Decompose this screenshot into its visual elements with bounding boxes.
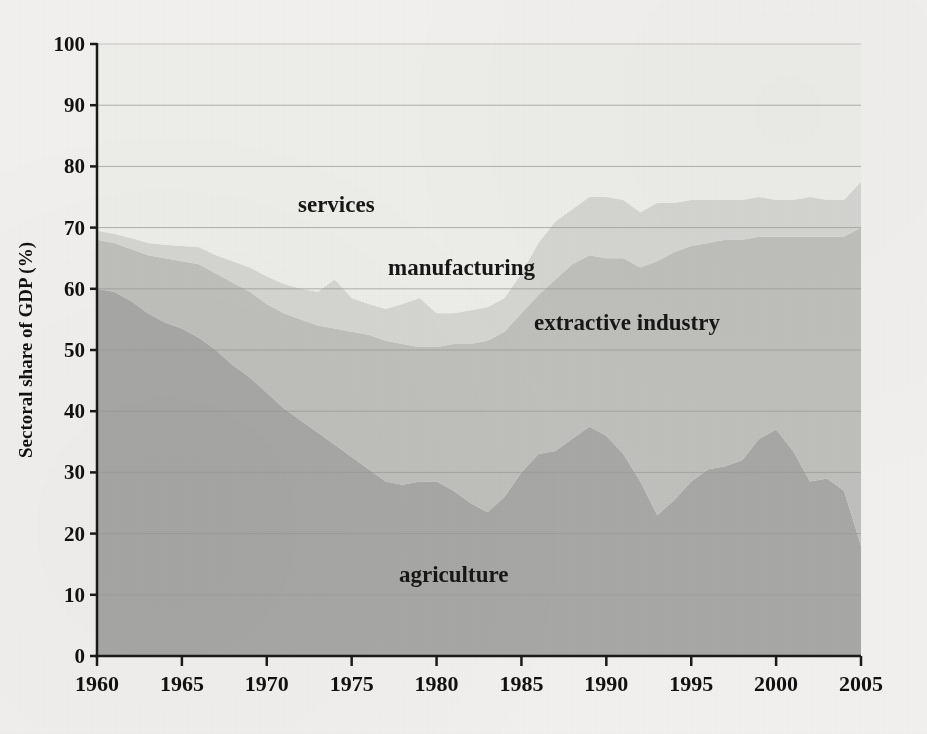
y-tick-label-20: 20 xyxy=(64,522,85,546)
chart-figure: 0102030405060708090100196019651970197519… xyxy=(0,0,927,734)
y-tick-label-50: 50 xyxy=(64,338,85,362)
series-label-agriculture: agriculture xyxy=(399,562,508,587)
y-tick-label-40: 40 xyxy=(64,399,85,423)
series-label-extractive: extractive industry xyxy=(534,310,720,335)
y-tick-label-70: 70 xyxy=(64,216,85,240)
series-label-services: services xyxy=(298,192,375,217)
x-tick-label-1960: 1960 xyxy=(75,671,119,696)
y-tick-label-30: 30 xyxy=(64,460,85,484)
y-axis: 0102030405060708090100 xyxy=(54,32,98,668)
y-tick-label-60: 60 xyxy=(64,277,85,301)
x-tick-label-1990: 1990 xyxy=(584,671,628,696)
y-tick-label-0: 0 xyxy=(75,644,86,668)
x-tick-label-2005: 2005 xyxy=(839,671,883,696)
y-axis-title: Sectoral share of GDP (%) xyxy=(15,242,37,458)
x-tick-label-2000: 2000 xyxy=(754,671,798,696)
y-tick-label-90: 90 xyxy=(64,93,85,117)
x-tick-label-1975: 1975 xyxy=(330,671,374,696)
x-tick-label-1995: 1995 xyxy=(669,671,713,696)
stacked-area-chart: 0102030405060708090100196019651970197519… xyxy=(0,0,927,734)
x-tick-label-1985: 1985 xyxy=(499,671,543,696)
y-tick-label-80: 80 xyxy=(64,154,85,178)
x-tick-label-1970: 1970 xyxy=(245,671,289,696)
x-tick-label-1980: 1980 xyxy=(415,671,459,696)
x-tick-label-1965: 1965 xyxy=(160,671,204,696)
y-tick-label-100: 100 xyxy=(54,32,86,56)
x-axis: 1960196519701975198019851990199520002005 xyxy=(75,656,883,696)
series-label-manufacturing: manufacturing xyxy=(388,255,535,280)
y-tick-label-10: 10 xyxy=(64,583,85,607)
